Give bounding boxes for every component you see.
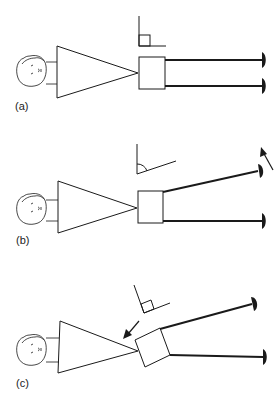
figure-canvas: (a) (b) (c) xyxy=(0,0,278,402)
face-icon xyxy=(17,334,59,365)
amplifier-triangle xyxy=(57,46,138,98)
electrode-icon xyxy=(262,213,266,229)
panel-label-c: (c) xyxy=(16,377,29,389)
wire-top-tilted xyxy=(163,171,258,192)
face-icon xyxy=(17,55,57,86)
joint-box xyxy=(139,57,165,89)
joint-box xyxy=(138,191,163,223)
electrode-icon xyxy=(258,164,263,178)
obtuse-angle-symbol xyxy=(137,144,176,174)
panel-c xyxy=(17,285,267,373)
arrow-up-icon xyxy=(260,147,273,170)
panel-label-a: (a) xyxy=(15,100,28,112)
diagram-svg xyxy=(0,0,278,402)
amplifier-triangle xyxy=(58,181,137,233)
right-angle-symbol xyxy=(139,16,166,46)
joint-box-rotated xyxy=(135,328,170,367)
wire-bottom xyxy=(170,355,263,357)
wire-top-tilted xyxy=(160,304,252,329)
electrode-icon xyxy=(263,349,267,365)
panel-label-b: (b) xyxy=(16,234,29,246)
electrode-icon xyxy=(262,78,266,94)
electrode-icon xyxy=(262,52,266,68)
panel-b xyxy=(17,144,273,233)
arrow-down-left-icon xyxy=(123,321,139,339)
face-icon xyxy=(17,193,58,224)
amplifier-triangle xyxy=(58,321,138,373)
panel-a xyxy=(17,16,266,98)
rotated-right-angle-symbol xyxy=(134,285,170,313)
